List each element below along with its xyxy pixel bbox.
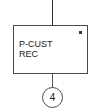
process-box-p-cust-rec[interactable]: P-CUSTREC	[13, 25, 88, 74]
diagram-canvas: P-CUSTREC 4	[0, 0, 98, 112]
square-dot-marker-icon	[79, 31, 82, 34]
process-box-label: P-CUSTREC	[19, 39, 53, 59]
connector-circle-4[interactable]: 4	[42, 87, 63, 108]
connector-circle-label: 4	[43, 88, 62, 107]
process-label-line-1: P-CUST	[19, 39, 53, 49]
connector-line-top	[52, 0, 53, 26]
connector-line-bottom	[52, 74, 53, 88]
process-label-line-2: REC	[19, 49, 53, 59]
